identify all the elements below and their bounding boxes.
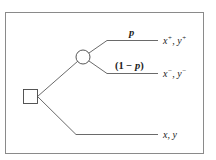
decision-node-square bbox=[24, 90, 38, 104]
chance-node-circle bbox=[76, 50, 90, 64]
branch-to-chance-node bbox=[38, 61, 79, 97]
prob-label-1-minus-p: (1 − p) bbox=[115, 60, 144, 72]
branch-upper bbox=[89, 41, 158, 54]
outcome-certain-label: x, y bbox=[162, 129, 177, 140]
outcome-gain-label: x+, y+ bbox=[162, 34, 187, 46]
outcome-loss-label: x−, y− bbox=[162, 67, 187, 79]
prob-label-p: p bbox=[128, 27, 134, 38]
decision-tree-diagram: p (1 − p) x+, y+ x−, y− x, y bbox=[0, 0, 216, 160]
branch-certain bbox=[38, 97, 159, 135]
